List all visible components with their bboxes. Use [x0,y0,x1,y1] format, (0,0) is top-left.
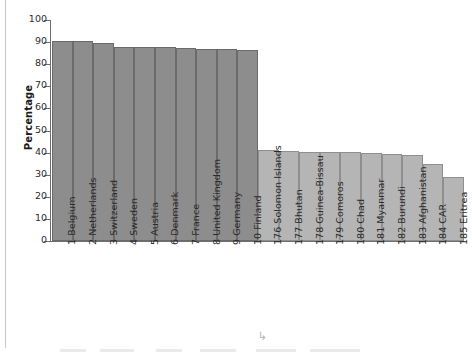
x-tick-label: 176 Solomon Islands [272,145,283,245]
page-bleed-glyph: ↳ [258,330,267,343]
y-tick-label: 10 [35,212,47,223]
x-tick-label: 181 Myanmar [375,179,386,245]
page-bleed-text [60,349,410,352]
page-gutter-rule [5,0,6,348]
x-tick-label: 179 Comoros [334,181,345,245]
x-tick-label: 7 France [190,204,201,245]
x-tick-label: 5 Austria [149,202,160,245]
y-tick-label: 20 [35,190,47,201]
x-tick-label: 185 Eritrea [458,192,469,245]
x-tick-label: 183 Afghanistan [417,167,428,245]
y-axis-line [50,20,51,242]
x-tick-label: 1 Belgium [66,197,77,245]
x-tick-label: 182 Burundi [396,186,407,245]
y-tick-label: 40 [35,146,47,157]
y-tick-label: 100 [29,13,47,24]
y-tick-label: 90 [35,35,47,46]
x-tick-label: 180 Chad [355,199,366,245]
x-tick-label: 8 United Kingdom [211,159,222,245]
y-tick-label: 60 [35,101,47,112]
y-tick-label: 30 [35,168,47,179]
x-tick-label: 184 CAR [437,204,448,245]
x-tick-label: 177 Bhutan [293,189,304,245]
x-tick-label: 10 Finland [252,195,263,245]
y-tick-label: 70 [35,79,47,90]
y-axis-title: Percentage [23,68,34,168]
x-tick-label: 3 Switzerland [108,180,119,245]
bar-chart-figure: Percentage 1009080706050403020100 1 Belg… [0,0,472,354]
x-tick-label: 4 Sweden [128,198,139,245]
y-tick-label: 80 [35,57,47,68]
y-tick-label: 50 [35,124,47,135]
x-tick-label: 178 Guinea-Bissau [314,155,325,245]
y-tick-label: 0 [41,234,47,245]
x-tick-label: 6 Denmark [169,192,180,245]
x-tick-label: 9 Germany [231,192,242,245]
x-tick-label: 2 Netherlands [87,177,98,245]
